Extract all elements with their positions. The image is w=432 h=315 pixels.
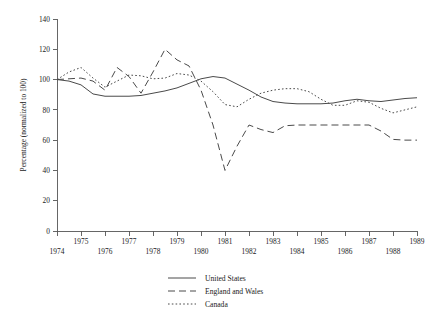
legend-label-england-and-wales: England and Wales [205, 287, 263, 296]
series-line-england-and-wales [57, 49, 417, 170]
x-axis-tick-label: 1975 [74, 237, 89, 246]
x-axis: 1974197519761977197819791980198119821983… [50, 231, 425, 256]
y-axis-tick-label: 60 [43, 136, 51, 145]
chart-figure: 020406080100120140 197419751976197719781… [0, 0, 432, 315]
x-axis-tick-label: 1980 [194, 247, 209, 256]
x-axis-tick-label: 1978 [146, 247, 161, 256]
x-axis-tick-label: 1984 [290, 247, 305, 256]
x-axis-tick-label: 1983 [266, 237, 281, 246]
y-axis-tick-label: 80 [43, 106, 51, 115]
x-axis-tick-label: 1979 [170, 237, 185, 246]
y-axis-tick-label: 100 [39, 75, 50, 84]
x-axis-tick-label: 1977 [122, 237, 137, 246]
data-series-group [57, 49, 417, 170]
chart-legend: United StatesEngland and WalesCanada [168, 274, 263, 309]
legend-label-canada: Canada [205, 300, 228, 309]
series-line-canada [57, 67, 417, 112]
y-axis: 020406080100120140 [39, 15, 57, 236]
x-axis-tick-label: 1974 [50, 247, 65, 256]
x-axis-tick-label: 1989 [410, 237, 425, 246]
y-axis-label: Percentage (normalized to 100) [19, 78, 28, 171]
line-chart: 020406080100120140 197419751976197719781… [0, 0, 432, 315]
x-axis-tick-label: 1981 [218, 237, 233, 246]
x-axis-tick-label: 1986 [338, 247, 353, 256]
y-axis-tick-label: 20 [43, 196, 51, 205]
legend-label-united-states: United States [205, 274, 246, 283]
y-axis-tick-label: 140 [39, 15, 50, 24]
x-axis-tick-label: 1987 [362, 237, 377, 246]
y-axis-tick-label: 0 [46, 227, 50, 236]
series-line-united-states [57, 77, 417, 104]
y-axis-tick-label: 40 [43, 166, 51, 175]
y-axis-title: Percentage (normalized to 100) [19, 78, 28, 171]
x-axis-tick-label: 1988 [386, 247, 401, 256]
y-axis-tick-label: 120 [39, 45, 50, 54]
x-axis-tick-label: 1976 [98, 247, 113, 256]
x-axis-tick-label: 1982 [242, 247, 257, 256]
x-axis-tick-label: 1985 [314, 237, 329, 246]
